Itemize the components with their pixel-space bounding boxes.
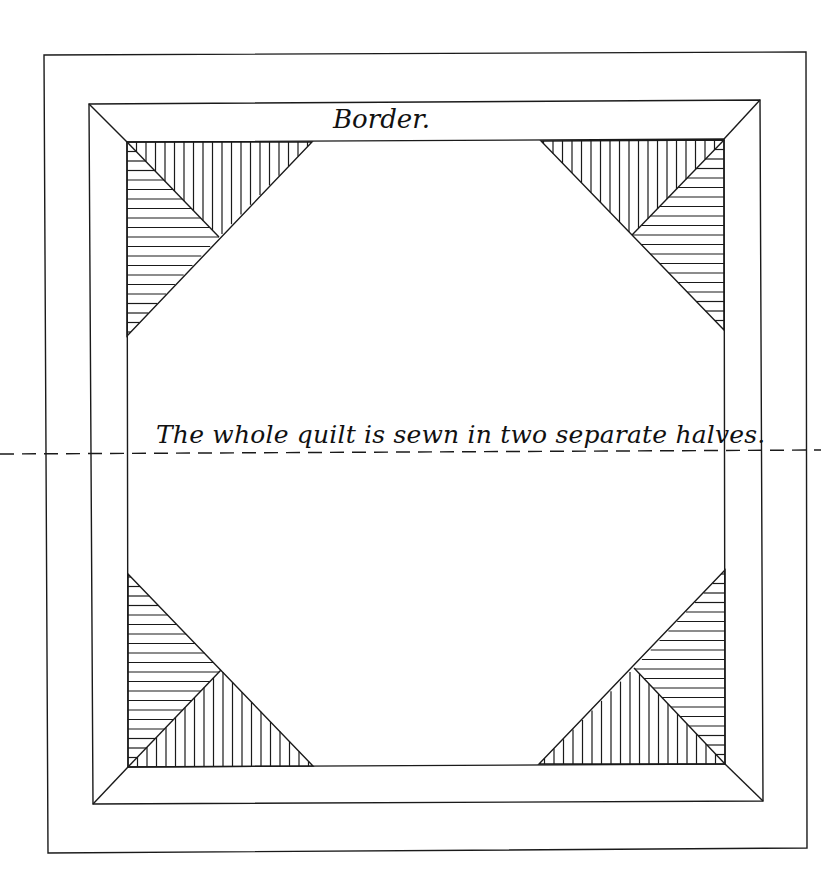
halves-note-label: The whole quilt is sewn in two separate … xyxy=(156,422,766,447)
border-label: Border. xyxy=(333,106,430,132)
triangle-bottom-right xyxy=(539,570,725,764)
corner-triangles xyxy=(127,140,725,767)
triangle-bottom-left xyxy=(128,574,313,767)
center-square xyxy=(127,139,725,767)
miter-line xyxy=(724,100,760,139)
triangle-top-right xyxy=(541,140,724,330)
fold-dashed-line xyxy=(0,450,821,454)
triangle-top-left xyxy=(127,142,312,336)
triangle-diagonal xyxy=(128,670,221,767)
fold-line xyxy=(0,450,821,454)
miter-line xyxy=(93,767,128,804)
miter-line xyxy=(89,104,127,142)
miter-line xyxy=(725,764,763,801)
